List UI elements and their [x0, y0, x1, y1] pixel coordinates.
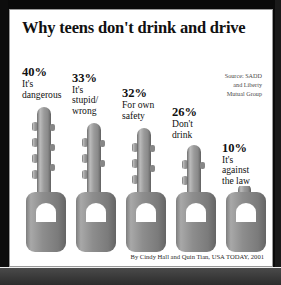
bar-label-5: 10% It's against the law — [222, 142, 250, 186]
bar-reason-2-line-3: wrong — [72, 106, 98, 116]
right-dark-edge — [275, 0, 281, 285]
bar-reason-4-line-2: drink — [172, 130, 197, 140]
bar-value-3: 32% — [122, 87, 154, 100]
infographic-screenshot: Why teens don't drink and drive Source: … — [0, 0, 281, 285]
infographic-card: Why teens don't drink and drive Source: … — [9, 9, 273, 267]
key-bar-5 — [224, 186, 268, 252]
left-dark-edge — [0, 0, 8, 285]
bar-group-3: 32% For own safety — [122, 82, 174, 252]
key-bar-1 — [24, 100, 68, 252]
bar-group-5: 10% It's against the law — [222, 150, 272, 252]
bar-reason-1-line-2: dangerous — [22, 90, 61, 100]
bar-group-1: 40% It's dangerous — [22, 56, 78, 252]
source-line-1: Source: SADD — [192, 72, 262, 81]
bar-value-4: 26% — [172, 106, 197, 119]
source-note: Source: SADD and Liberty Mutual Group — [192, 72, 262, 99]
bar-label-2: 33% It's stupid/ wrong — [72, 72, 98, 116]
bar-label-4: 26% Don't drink — [172, 106, 197, 140]
source-line-3: Mutual Group — [192, 90, 262, 99]
bar-label-1: 40% It's dangerous — [22, 66, 61, 100]
key-bar-4 — [174, 140, 218, 252]
key-bar-2 — [74, 116, 118, 252]
bar-value-2: 33% — [72, 72, 98, 85]
key-bar-3 — [124, 121, 168, 252]
page-title: Why teens don't drink and drive — [22, 18, 245, 38]
source-line-2: and Liberty — [192, 81, 262, 90]
bar-group-4: 26% Don't drink — [172, 104, 224, 252]
bar-reason-3-line-2: safety — [122, 111, 154, 121]
bar-group-2: 33% It's stupid/ wrong — [72, 74, 124, 252]
credit-line: By Cindy Hall and Quin Tian, USA TODAY, … — [131, 253, 265, 260]
footer-bar — [0, 268, 281, 285]
bar-reason-5-line-3: the law — [222, 176, 250, 186]
bar-value-1: 40% — [22, 66, 61, 79]
bar-value-5: 10% — [222, 142, 250, 155]
bar-label-3: 32% For own safety — [122, 87, 154, 121]
